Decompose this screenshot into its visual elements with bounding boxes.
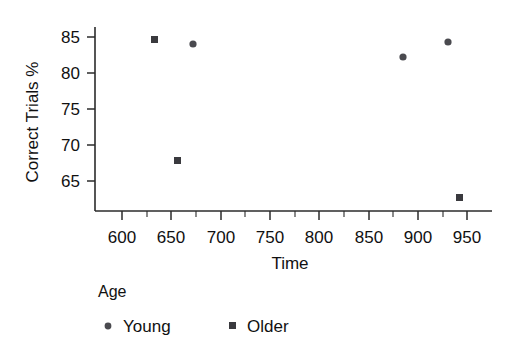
chart-canvas: Correct Trials % 85 80 75 70 65 600 650: [0, 0, 521, 341]
x-tick-label-900: 900: [404, 228, 432, 247]
legend-marker-square-icon: [229, 322, 236, 329]
legend-label-young: Young: [123, 317, 171, 336]
y-axis-title: Correct Trials %: [23, 62, 42, 183]
legend-title: Age: [98, 283, 127, 300]
x-tick-label-850: 850: [355, 228, 383, 247]
data-point-older-2: [174, 157, 181, 164]
series-young-points: [189, 38, 451, 60]
x-tick-label-950: 950: [453, 228, 481, 247]
data-point-older-1: [151, 36, 158, 43]
legend-marker-circle-icon: [105, 323, 112, 330]
y-tick-label-65: 65: [61, 172, 80, 191]
y-axis-ticks: 85 80 75 70 65: [61, 28, 95, 191]
x-tick-label-800: 800: [305, 228, 333, 247]
x-tick-label-600: 600: [108, 228, 136, 247]
x-tick-label-650: 650: [157, 228, 185, 247]
y-tick-label-70: 70: [61, 136, 80, 155]
data-point-young-3: [444, 38, 451, 45]
y-tick-label-85: 85: [61, 28, 80, 47]
legend-label-older: Older: [247, 317, 289, 336]
legend-item-young[interactable]: Young: [105, 317, 171, 336]
legend-item-older[interactable]: Older: [229, 317, 289, 336]
y-tick-label-80: 80: [61, 64, 80, 83]
data-point-young-1: [189, 40, 196, 47]
axis-spines: [95, 27, 492, 211]
x-axis-minor-ticks: [147, 211, 443, 217]
y-tick-label-75: 75: [61, 100, 80, 119]
x-tick-label-700: 700: [207, 228, 235, 247]
x-tick-label-750: 750: [256, 228, 284, 247]
data-point-older-3: [456, 194, 463, 201]
legend: Age Young Older: [98, 283, 289, 336]
scatter-plot-figure: Correct Trials % 85 80 75 70 65 600 650: [0, 0, 521, 341]
data-point-young-2: [399, 53, 406, 60]
series-older-points: [151, 36, 463, 201]
x-axis-title: Time: [271, 254, 308, 273]
y-axis-title-group: Correct Trials %: [23, 62, 42, 183]
